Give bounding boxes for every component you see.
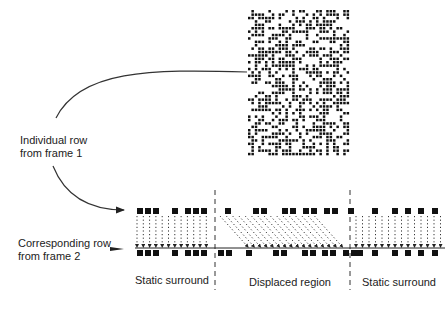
label-row-frame2-line2: from frame 2 [18, 250, 111, 263]
frame2-row [137, 250, 438, 256]
label-row-frame1-line1: Individual row [20, 134, 87, 147]
correspondence-arrows [135, 216, 445, 248]
label-row-frame1: Individual row from frame 1 [20, 134, 87, 160]
random-dot-image [248, 10, 349, 155]
label-row-frame2: Corresponding row from frame 2 [18, 237, 111, 263]
connector-curve-top [56, 71, 247, 118]
label-displaced-region: Displaced region [249, 276, 331, 289]
label-row-frame2-line1: Corresponding row [18, 237, 111, 250]
label-row-frame1-line2: from frame 1 [20, 147, 87, 160]
connector-arrow-bottom [53, 166, 124, 210]
label-static-surround-right: Static surround [362, 276, 436, 289]
frame1-row [137, 208, 438, 214]
region-separators [215, 190, 350, 290]
arrow-to-frame2-row [110, 247, 124, 251]
label-static-surround-left: Static surround [135, 274, 209, 287]
